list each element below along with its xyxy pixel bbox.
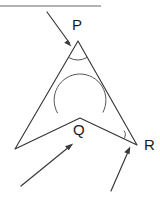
angle-arc-p	[69, 58, 87, 61]
diagram-canvas: P Q R	[0, 0, 160, 199]
pointer-to-r-angle	[111, 147, 130, 192]
vertex-label-p: P	[72, 16, 82, 33]
pointer-to-q-angle	[21, 143, 73, 186]
vertex-label-q: Q	[73, 121, 85, 138]
angle-arc-r	[124, 131, 125, 138]
pointer-to-r-shaft	[111, 150, 129, 191]
geometry-diagram: P Q R	[0, 0, 160, 199]
pointer-to-p-angle	[47, 12, 72, 47]
pointer-to-q-shaft	[21, 146, 70, 186]
vertex-label-r: R	[144, 136, 155, 153]
angle-arc-q-reflex	[54, 74, 106, 113]
pointer-to-r-arrowhead	[124, 147, 130, 155]
pointer-to-p-arrowhead	[64, 40, 71, 46]
pointer-to-p-shaft	[47, 12, 70, 43]
